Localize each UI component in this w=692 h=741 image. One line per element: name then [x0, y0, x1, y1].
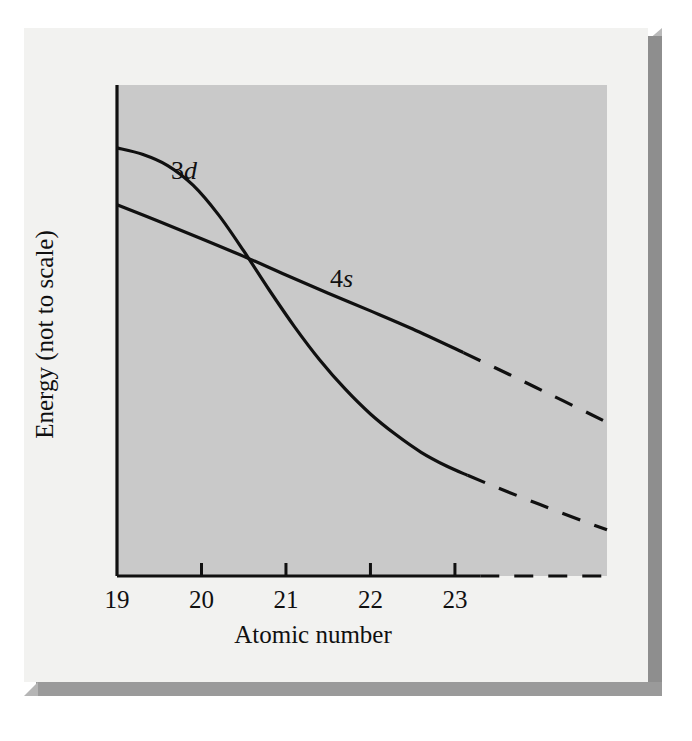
series-label-4s-number: 4: [330, 264, 343, 293]
x-axis-title: Atomic number: [0, 622, 692, 647]
y-axis-title-text: Energy (not to scale): [31, 230, 58, 439]
x-axis-title-text: Atomic number: [234, 621, 392, 648]
figure-root: 1920212223 Atomic number Energy (not to …: [0, 0, 692, 741]
series-label-3d-number: 3: [171, 156, 184, 185]
series-label-3d: 3d: [171, 158, 197, 184]
x-tick-label-22: 22: [358, 587, 383, 612]
series-label-4s-orbital: s: [343, 264, 353, 293]
x-tick-label-23: 23: [442, 587, 467, 612]
series-label-3d-orbital: d: [184, 156, 197, 185]
series-label-4s: 4s: [330, 266, 353, 292]
x-tick-label-21: 21: [273, 587, 298, 612]
curve-3d-dashed: [468, 475, 607, 529]
x-tick-label-20: 20: [189, 587, 214, 612]
curve-4s-dashed: [463, 353, 607, 423]
curve-4s-solid: [117, 205, 463, 353]
curve-3d-solid: [117, 148, 468, 476]
x-tick-label-19: 19: [105, 587, 130, 612]
y-axis-title: Energy (not to scale): [32, 85, 57, 585]
